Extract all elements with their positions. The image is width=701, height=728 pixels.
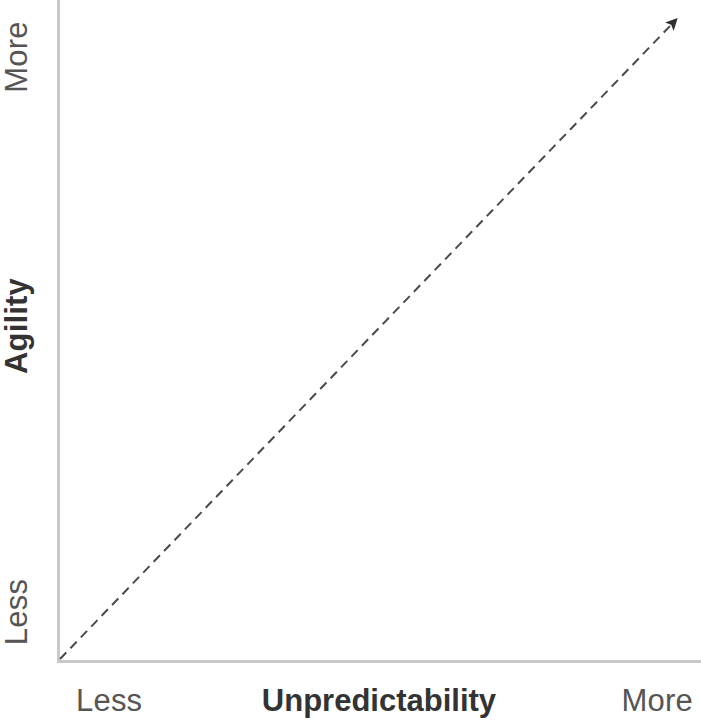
plot-area (0, 0, 701, 728)
y-axis-title: Agility (0, 266, 35, 386)
y-axis-high-label: More (0, 7, 34, 107)
x-axis-title: Unpredictability (57, 683, 701, 719)
trend-line-dashed (60, 25, 671, 659)
x-axis-high-label: More (622, 683, 693, 719)
y-axis-low-label: Less (0, 562, 34, 662)
chart-figure: More Agility Less Less Unpredictability … (0, 0, 701, 728)
